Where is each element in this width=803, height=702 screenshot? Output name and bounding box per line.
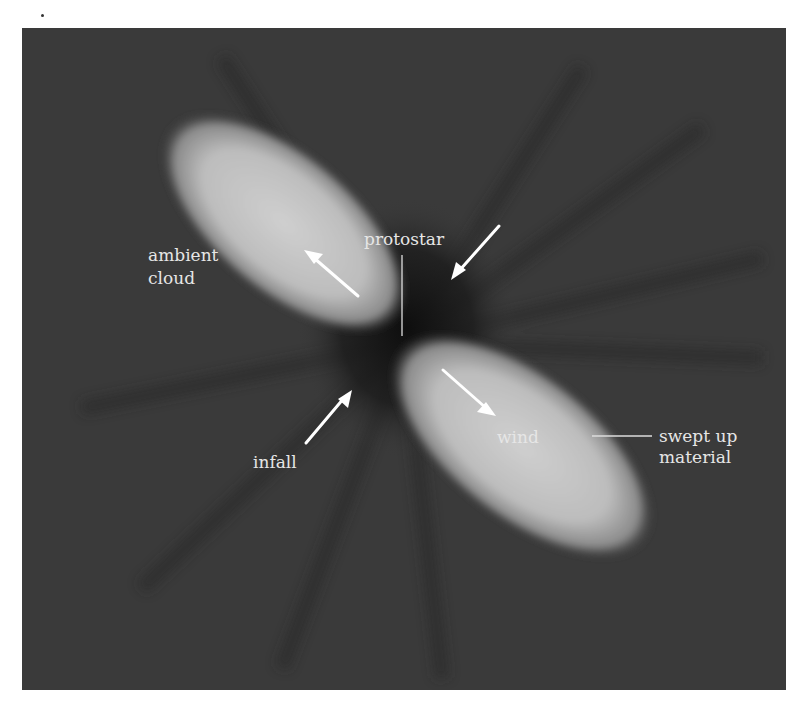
label-protostar: protostar bbox=[364, 229, 444, 249]
label-ambient-cloud-line2: cloud bbox=[148, 268, 195, 288]
protostar-outflow-image: ambient cloud protostar infall wind swep… bbox=[22, 28, 786, 690]
stray-mark bbox=[41, 14, 44, 17]
label-wind: wind bbox=[497, 427, 539, 447]
label-swept-up-line1: swept up bbox=[659, 426, 737, 446]
label-ambient-cloud-line1: ambient bbox=[148, 245, 218, 265]
label-swept-up-line2: material bbox=[659, 447, 731, 467]
label-infall: infall bbox=[253, 452, 297, 472]
outflow-illustration bbox=[22, 28, 786, 690]
